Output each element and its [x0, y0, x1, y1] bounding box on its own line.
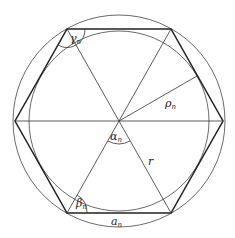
gamma-label: γn	[70, 32, 82, 46]
apothem-line	[119, 76, 197, 121]
r-label: r	[148, 155, 154, 168]
rho-label: ρn	[164, 97, 176, 111]
side-a-label: an	[111, 215, 123, 229]
hexagon-diagram: γn ρn αn r βn an	[0, 0, 235, 238]
beta-label: βn	[75, 197, 87, 211]
alpha-label: αn	[110, 130, 122, 144]
